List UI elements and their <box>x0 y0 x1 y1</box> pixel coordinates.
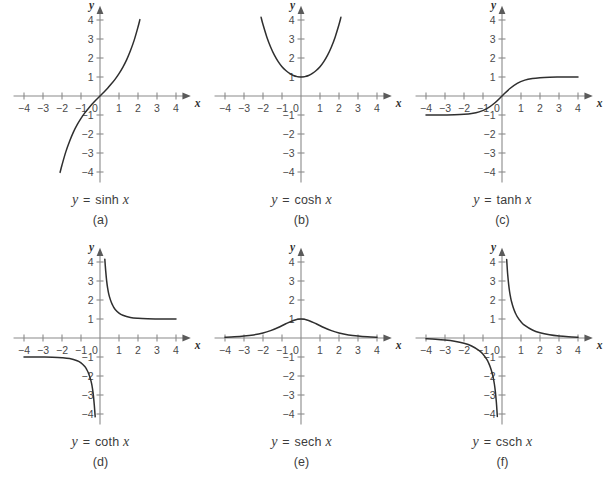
panel-label: (b) <box>201 211 402 229</box>
x-tick-label: −3 <box>238 344 250 356</box>
x-tick-label: 1 <box>317 344 323 356</box>
y-tick-label: −2 <box>283 128 295 140</box>
plot-area-d: −4−3−2−11234−4−3−2−112340xy <box>0 242 201 438</box>
equation-function-name: tanh <box>497 193 522 207</box>
y-tick-label: −2 <box>283 370 295 382</box>
y-tick-label: 2 <box>490 294 496 306</box>
x-tick-label: −2 <box>257 102 269 114</box>
plot-panel-a: −4−3−2−11234−4−3−2−112340xyy = sinh x(a) <box>0 0 201 242</box>
x-tick-label: −4 <box>420 344 432 356</box>
x-tick-label: 1 <box>317 102 323 114</box>
x-axis-label: x <box>395 339 402 351</box>
x-tick-label: −2 <box>56 344 68 356</box>
equation-equals: = <box>483 193 493 207</box>
y-tick-label: −3 <box>283 389 295 401</box>
equation-lhs: y <box>72 434 78 449</box>
curve-coth <box>105 259 176 319</box>
x-tick-label: −3 <box>37 102 49 114</box>
y-tick-label: −3 <box>283 147 295 159</box>
axes-e: −4−3−2−11234−4−3−2−112340xy <box>201 242 402 438</box>
y-tick-label: 4 <box>490 256 496 268</box>
caption-b: y = cosh x(b) <box>201 190 402 229</box>
axes-c: −4−3−2−11234−4−3−2−112340xy <box>402 0 603 196</box>
axes-f: −4−3−2−11234−4−3−2−112340xy <box>402 242 603 438</box>
x-tick-label: −3 <box>37 344 49 356</box>
x-axis-arrow-icon <box>584 93 592 100</box>
axes-a: −4−3−2−11234−4−3−2−112340xy <box>0 0 201 196</box>
y-axis-arrow-icon <box>97 248 104 256</box>
y-tick-label: 1 <box>490 71 496 83</box>
panel-grid: −4−3−2−11234−4−3−2−112340xyy = sinh x(a)… <box>0 0 603 484</box>
caption-equation: y = sinh x <box>0 190 201 210</box>
x-tick-label: 2 <box>135 344 141 356</box>
y-tick-label: −4 <box>82 408 94 420</box>
y-axis-label: y <box>489 0 497 12</box>
y-tick-label: 2 <box>289 294 295 306</box>
equation-function-name: coth <box>95 435 119 449</box>
y-axis-label: y <box>87 0 95 12</box>
equation-argument: x <box>123 192 129 207</box>
x-tick-label: −3 <box>238 102 250 114</box>
x-tick-label: −2 <box>458 102 470 114</box>
x-axis-label: x <box>596 97 603 109</box>
equation-equals: = <box>483 435 493 449</box>
x-tick-label: −3 <box>439 102 451 114</box>
x-axis-label: x <box>194 339 201 351</box>
x-tick-label: 2 <box>537 102 543 114</box>
x-tick-label: 3 <box>556 102 562 114</box>
x-tick-label: 4 <box>374 344 380 356</box>
y-tick-label: 4 <box>88 14 94 26</box>
y-tick-label: 1 <box>289 313 295 325</box>
y-tick-label: −2 <box>484 128 496 140</box>
equation-equals: = <box>281 435 291 449</box>
x-tick-label: 4 <box>173 344 179 356</box>
y-tick-label: −3 <box>484 389 496 401</box>
x-tick-label: 3 <box>355 344 361 356</box>
y-tick-label: −4 <box>82 166 94 178</box>
plot-panel-e: −4−3−2−11234−4−3−2−112340xyy = sech x(e) <box>201 242 402 484</box>
x-axis-label: x <box>596 339 603 351</box>
x-tick-label: 3 <box>154 344 160 356</box>
x-tick-label: −4 <box>18 344 30 356</box>
origin-label: 0 <box>494 344 500 356</box>
x-axis-label: x <box>395 97 402 109</box>
equation-lhs: y <box>271 192 277 207</box>
equation-equals: = <box>281 193 291 207</box>
y-tick-label: 3 <box>490 275 496 287</box>
origin-label: 0 <box>293 344 299 356</box>
y-axis-arrow-icon <box>499 248 506 256</box>
x-tick-label: −3 <box>439 344 451 356</box>
x-tick-label: 3 <box>154 102 160 114</box>
equation-equals: = <box>82 435 92 449</box>
y-axis-label: y <box>288 242 296 254</box>
equation-equals: = <box>82 193 92 207</box>
x-axis-arrow-icon <box>383 335 391 342</box>
plot-area-b: −4−3−2−11234−4−3−2−112340xy <box>201 0 402 196</box>
caption-equation: y = coth x <box>0 432 201 452</box>
equation-lhs: y <box>473 192 479 207</box>
equation-function-name: csch <box>496 435 523 449</box>
y-tick-label: 2 <box>289 52 295 64</box>
caption-equation: y = cosh x <box>201 190 402 210</box>
plot-panel-b: −4−3−2−11234−4−3−2−112340xyy = cosh x(b) <box>201 0 402 242</box>
x-tick-label: 2 <box>336 344 342 356</box>
y-tick-label: 3 <box>289 33 295 45</box>
x-tick-label: 1 <box>116 344 122 356</box>
hyperbolic-functions-figure: −4−3−2−11234−4−3−2−112340xyy = sinh x(a)… <box>0 0 603 484</box>
origin-label: 0 <box>92 344 98 356</box>
x-axis-arrow-icon <box>182 93 190 100</box>
y-axis-arrow-icon <box>298 6 305 14</box>
y-tick-label: −2 <box>82 128 94 140</box>
y-tick-label: −3 <box>82 389 94 401</box>
caption-equation: y = sech x <box>201 432 402 452</box>
x-tick-label: −4 <box>219 344 231 356</box>
axes-b: −4−3−2−11234−4−3−2−112340xy <box>201 0 402 196</box>
y-tick-label: 1 <box>88 313 94 325</box>
x-axis-label: x <box>194 97 201 109</box>
y-axis-label: y <box>87 242 95 254</box>
origin-label: 0 <box>293 102 299 114</box>
x-tick-label: 2 <box>537 344 543 356</box>
panel-label: (f) <box>402 453 603 471</box>
x-tick-label: −2 <box>257 344 269 356</box>
axes-d: −4−3−2−11234−4−3−2−112340xy <box>0 242 201 438</box>
